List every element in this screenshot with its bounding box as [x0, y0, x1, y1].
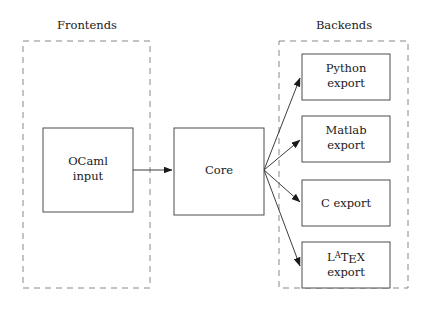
node-label-latex-export-line2: export — [327, 265, 365, 279]
architecture-diagram: Frontends Backends OCaml input Core — [0, 0, 427, 316]
edge-core-to-python — [264, 78, 300, 170]
node-label-c-export: C export — [321, 196, 372, 210]
node-label-matlab-export-line2: export — [327, 138, 365, 152]
edge-core-to-latex — [264, 170, 300, 266]
node-label-python-export-line2: export — [327, 76, 365, 90]
group-label-backends: Backends — [316, 18, 372, 32]
node-ocaml-input[interactable]: OCaml input — [43, 128, 133, 212]
node-latex-export[interactable]: LATEX export — [302, 242, 390, 288]
node-python-export[interactable]: Python export — [302, 54, 390, 100]
diagram-canvas: Frontends Backends OCaml input Core — [0, 0, 427, 316]
group-label-frontends: Frontends — [57, 18, 117, 32]
node-label-ocaml-input-line1: OCaml — [68, 154, 108, 168]
node-label-ocaml-input-line2: input — [73, 169, 104, 183]
node-core[interactable]: Core — [174, 128, 264, 215]
node-c-export[interactable]: C export — [302, 180, 390, 226]
node-label-python-export-line1: Python — [326, 61, 367, 75]
node-label-matlab-export-line1: Matlab — [325, 123, 366, 137]
node-label-latex-export-logo: LATEX — [327, 250, 366, 267]
node-label-core: Core — [205, 163, 233, 177]
node-matlab-export[interactable]: Matlab export — [302, 116, 390, 162]
edge-core-to-c — [264, 170, 300, 202]
latex-logo-x: X — [357, 250, 366, 264]
